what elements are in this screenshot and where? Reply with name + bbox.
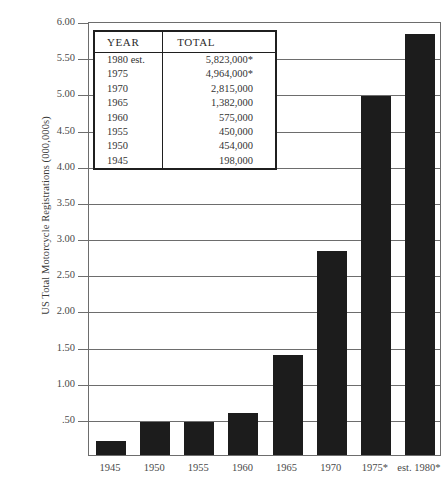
y-axis-tick — [78, 312, 89, 313]
y-axis-tick-label: 5.50 — [31, 52, 75, 63]
cell-total: 575,000 — [163, 111, 275, 125]
bar — [273, 355, 303, 455]
y-axis-tick — [78, 132, 89, 133]
cell-total: 454,000 — [163, 139, 275, 153]
x-axis-tick-label: 1975* — [353, 462, 397, 473]
x-axis-tick-label: est. 1980* — [397, 462, 441, 473]
y-axis-tick-label: 4.00 — [31, 161, 75, 172]
y-axis-tick — [78, 421, 89, 422]
column-header-year: YEAR — [95, 32, 163, 53]
table-row: 19651,382,000 — [95, 96, 275, 110]
table-row: 19702,815,000 — [95, 82, 275, 96]
cell-total: 1,382,000 — [163, 96, 275, 110]
x-axis-tick-label: 1945 — [88, 462, 132, 473]
y-axis-tick — [78, 23, 89, 24]
cell-total: 450,000 — [163, 125, 275, 139]
y-axis-tick-label: 1.00 — [31, 378, 75, 389]
y-axis-tick-label: 3.00 — [31, 233, 75, 244]
y-axis-tick — [78, 240, 89, 241]
y-axis-tick-label: 4.50 — [31, 125, 75, 136]
cell-year: 1960 — [95, 111, 163, 125]
y-axis-tick — [78, 349, 89, 350]
table-row: 1950454,000 — [95, 139, 275, 153]
table-header-row: YEAR TOTAL — [95, 32, 275, 53]
cell-total: 4,964,000* — [163, 67, 275, 81]
cell-year: 1965 — [95, 96, 163, 110]
cell-year: 1955 — [95, 125, 163, 139]
bar — [405, 34, 435, 455]
cell-total: 5,823,000* — [163, 53, 275, 67]
x-axis-tick-label: 1950 — [132, 462, 176, 473]
bar — [140, 422, 170, 455]
x-axis-tick-label: 1965 — [265, 462, 309, 473]
bar — [228, 413, 258, 455]
y-axis-tick — [78, 276, 89, 277]
y-axis-tick — [78, 168, 89, 169]
registrations-table: YEAR TOTAL 1980 est.5,823,000*19754,964,… — [95, 32, 275, 168]
x-axis-tick-label: 1955 — [176, 462, 220, 473]
y-axis-tick — [78, 95, 89, 96]
cell-year: 1980 est. — [95, 53, 163, 67]
y-axis-tick — [78, 204, 89, 205]
inset-data-table: YEAR TOTAL 1980 est.5,823,000*19754,964,… — [93, 30, 277, 170]
cell-year: 1950 — [95, 139, 163, 153]
bar — [317, 251, 347, 455]
table-row: 1945198,000 — [95, 154, 275, 168]
chart-figure: US Total Motorcycle Registrations (000,0… — [0, 0, 448, 493]
y-axis-tick-label: 5.00 — [31, 88, 75, 99]
cell-year: 1975 — [95, 67, 163, 81]
y-axis-tick-label: 3.50 — [31, 197, 75, 208]
cell-year: 1945 — [95, 154, 163, 168]
bar — [96, 441, 126, 455]
y-axis-tick — [78, 59, 89, 60]
table-row: 1955450,000 — [95, 125, 275, 139]
y-axis-tick-label: 2.50 — [31, 269, 75, 280]
y-axis-tick-label: 2.00 — [31, 305, 75, 316]
table-row: 1980 est.5,823,000* — [95, 53, 275, 67]
table-row: 19754,964,000* — [95, 67, 275, 81]
column-header-total: TOTAL — [163, 32, 275, 53]
bar — [184, 422, 214, 455]
y-axis-tick-label: .50 — [31, 414, 75, 425]
cell-total: 198,000 — [163, 154, 275, 168]
x-axis-tick-label: 1960 — [220, 462, 264, 473]
cell-total: 2,815,000 — [163, 82, 275, 96]
table-row: 1960575,000 — [95, 111, 275, 125]
cell-year: 1970 — [95, 82, 163, 96]
bar — [361, 96, 391, 455]
y-axis-tick-label: 1.50 — [31, 342, 75, 353]
y-axis-tick — [78, 385, 89, 386]
x-axis-tick-label: 1970 — [309, 462, 353, 473]
y-axis-tick-label: 6.00 — [31, 16, 75, 27]
